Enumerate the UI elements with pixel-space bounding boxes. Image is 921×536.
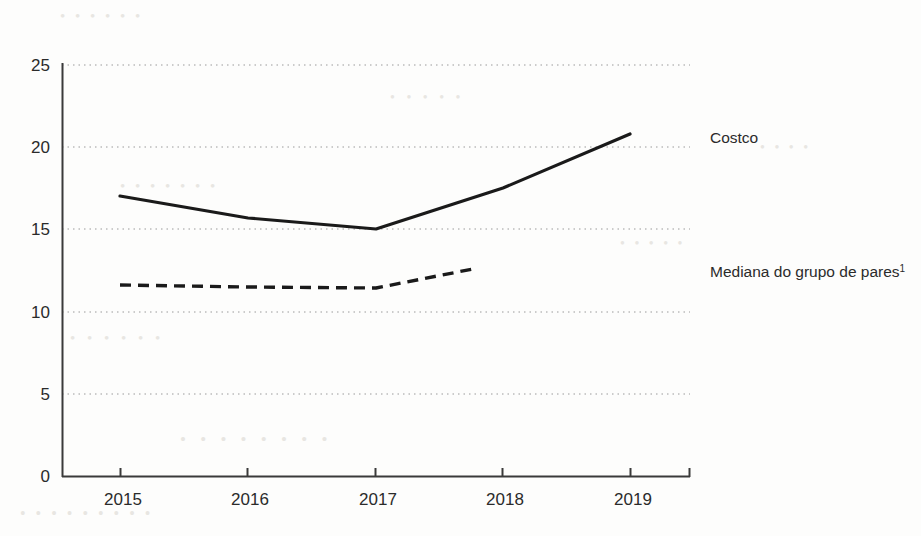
y-tick-label-5: 5 xyxy=(41,385,50,404)
series-line-costco xyxy=(120,134,630,229)
x-axis xyxy=(62,468,690,477)
y-tick-label-25: 25 xyxy=(31,56,50,75)
y-tick-label-10: 10 xyxy=(31,303,50,322)
y-tick-label-0: 0 xyxy=(41,467,50,486)
x-tick-label-2018: 2018 xyxy=(486,490,524,509)
series-label-costco: Costco xyxy=(710,129,758,146)
x-tick-label-2016: 2016 xyxy=(231,490,269,509)
series-label-peer-median-footnote-marker: 1 xyxy=(900,263,906,274)
line-chart: 25 20 15 10 5 0 2015 2016 2017 2018 2019… xyxy=(0,0,921,536)
y-tick-labels: 25 20 15 10 5 0 xyxy=(31,56,50,486)
series-label-peer-median: Mediana do grupo de pares1 xyxy=(710,263,906,281)
y-tick-label-20: 20 xyxy=(31,138,50,157)
y-tick-label-15: 15 xyxy=(31,220,50,239)
chart-page: • • • • • • • • • • • • • • • • • • • • … xyxy=(0,0,921,536)
series-label-peer-median-text: Mediana do grupo de pares xyxy=(710,263,900,280)
x-tick-label-2015: 2015 xyxy=(104,490,142,509)
x-tick-labels: 2015 2016 2017 2018 2019 xyxy=(104,490,652,509)
x-tick-label-2019: 2019 xyxy=(614,490,652,509)
series-line-peer-median xyxy=(120,268,478,288)
x-tick-label-2017: 2017 xyxy=(359,490,397,509)
